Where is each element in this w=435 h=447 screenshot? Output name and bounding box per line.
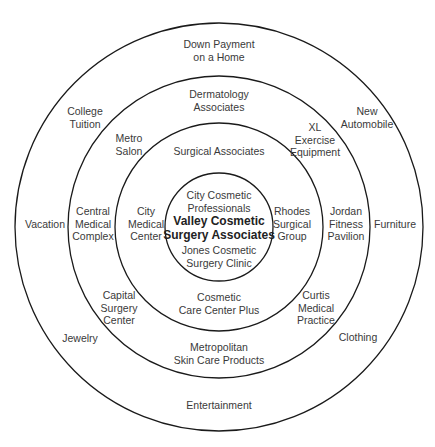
label-line: on a Home	[183, 50, 254, 63]
center-label-line: Surgery Associates	[163, 228, 275, 242]
label-clothing: Clothing	[339, 331, 378, 344]
label-line: Surgery Clinic	[182, 256, 257, 269]
label-line: Automobile	[341, 117, 394, 130]
label-line: Vacation	[25, 218, 65, 231]
label-line: Jones Cosmetic	[182, 244, 257, 257]
label-line: Medical	[72, 218, 113, 231]
label-line: Professionals	[187, 201, 252, 214]
label-line: Pavilion	[328, 230, 365, 243]
label-line: Group	[273, 230, 311, 243]
label-line: Center	[101, 314, 138, 327]
label-line: Medical	[297, 302, 335, 315]
label-line: Surgery	[101, 302, 138, 315]
label-line: Care Center Plus	[179, 303, 260, 316]
label-cosmetic-care-center-plus: Cosmetic Care Center Plus	[179, 291, 260, 316]
label-xl-exercise-equipment: XL Exercise Equipment	[290, 121, 340, 159]
label-college-tuition: College Tuition	[67, 105, 103, 130]
label-line: Rhodes	[273, 205, 311, 218]
label-line: Jewelry	[62, 332, 98, 345]
label-line: Metro	[116, 132, 143, 145]
label-line: Furniture	[374, 218, 416, 231]
label-surgical-associates: Surgical Associates	[173, 145, 264, 158]
label-line: XL	[290, 121, 340, 134]
label-line: Clothing	[339, 331, 378, 344]
label-line: Medical	[128, 218, 164, 231]
label-line: Central	[72, 205, 113, 218]
label-line: Skin Care Products	[174, 353, 264, 366]
label-curtis-medical-practice: Curtis Medical Practice	[297, 289, 335, 327]
label-line: Complex	[72, 230, 113, 243]
label-line: Metropolitan	[174, 341, 264, 354]
center-label-line: Valley Cosmetic	[163, 214, 275, 228]
label-metropolitan-skin-care-products: Metropolitan Skin Care Products	[174, 341, 264, 366]
label-metro-salon: Metro Salon	[116, 132, 143, 157]
label-line: New	[341, 105, 394, 118]
label-new-automobile: New Automobile	[341, 105, 394, 130]
label-down-payment-on-a-home: Down Payment on a Home	[183, 38, 254, 63]
label-line: City Cosmetic	[187, 189, 252, 202]
label-city-cosmetic-professionals: City Cosmetic Professionals	[187, 189, 252, 214]
label-line: Entertainment	[186, 399, 251, 412]
label-central-medical-complex: Central Medical Complex	[72, 205, 113, 243]
label-capital-surgery-center: Capital Surgery Center	[101, 289, 138, 327]
label-furniture: Furniture	[374, 218, 416, 231]
label-jordan-fitness-pavilion: Jordan Fitness Pavilion	[328, 205, 365, 243]
concentric-competition-diagram: Valley Cosmetic Surgery Associates City …	[0, 0, 435, 447]
label-line: College	[67, 105, 103, 118]
label-jones-cosmetic-surgery-clinic: Jones Cosmetic Surgery Clinic	[182, 244, 257, 269]
label-line: Equipment	[290, 146, 340, 159]
label-line: Associates	[189, 100, 249, 113]
label-line: Surgical Associates	[173, 145, 264, 158]
label-line: Tuition	[67, 117, 103, 130]
label-line: Exercise	[290, 134, 340, 147]
center-label: Valley Cosmetic Surgery Associates	[163, 214, 275, 242]
label-vacation: Vacation	[25, 218, 65, 231]
label-line: Jordan	[328, 205, 365, 218]
label-line: Dermatology	[189, 88, 249, 101]
label-line: Curtis	[297, 289, 335, 302]
label-rhodes-surgical-group: Rhodes Surgical Group	[273, 205, 311, 243]
label-line: Cosmetic	[179, 291, 260, 304]
label-line: Down Payment	[183, 38, 254, 51]
label-line: Salon	[116, 144, 143, 157]
label-line: Center	[128, 230, 164, 243]
label-line: Fitness	[328, 218, 365, 231]
label-jewelry: Jewelry	[62, 332, 98, 345]
label-line: City	[128, 205, 164, 218]
label-line: Surgical	[273, 218, 311, 231]
label-line: Capital	[101, 289, 138, 302]
label-dermatology-associates: Dermatology Associates	[189, 88, 249, 113]
label-line: Practice	[297, 314, 335, 327]
label-entertainment: Entertainment	[186, 399, 251, 412]
label-city-medical-center: City Medical Center	[128, 205, 164, 243]
